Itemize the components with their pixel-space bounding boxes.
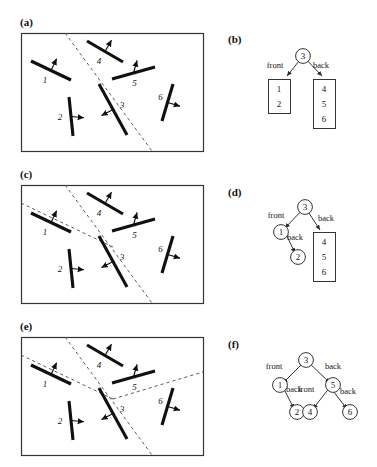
tree-leaf-box-1 — [314, 233, 336, 282]
segment-number-6: 6 — [158, 244, 163, 254]
tree-node-circle-4 — [303, 405, 318, 420]
tree-edge-1 — [287, 56, 303, 76]
scene-segment-4 — [87, 193, 123, 214]
dashed-split-line-2 — [21, 203, 113, 247]
segment-number-2: 2 — [58, 416, 63, 426]
tree-edge-1 — [285, 207, 305, 228]
edge-label-front-1: front — [268, 210, 285, 220]
dashed-split-line-1 — [65, 337, 152, 455]
tree-node-label-4: 4 — [308, 407, 313, 417]
dashed-split-line-1 — [65, 33, 152, 151]
tree-edge-3 — [283, 387, 294, 409]
segment-number-4: 4 — [97, 56, 102, 66]
segment-number-2: 2 — [58, 112, 63, 122]
scene-segment-6 — [162, 236, 173, 273]
normal-arrow-3 — [102, 414, 113, 420]
dashed-split-line-1 — [65, 185, 152, 303]
tree-edge-2 — [305, 207, 320, 230]
segment-number-6: 6 — [158, 396, 163, 406]
scene-segment-4 — [87, 345, 123, 366]
edge-label-back-5: back — [340, 386, 357, 396]
tree-leaf-item-4: 4 — [322, 84, 327, 94]
normal-arrow-3 — [102, 262, 113, 268]
edge-label-back-3: back — [286, 384, 303, 394]
scene-segment-1 — [31, 213, 71, 232]
tree-node-label-1: 1 — [279, 227, 284, 237]
edge-label-front-1: front — [266, 361, 283, 371]
tree-node-circle-2 — [290, 405, 305, 420]
tree-leaf-box-1 — [269, 80, 291, 114]
dashed-split-line-3 — [113, 372, 203, 399]
tree-node-circle-1 — [273, 378, 288, 393]
scene-segment-6 — [162, 388, 173, 425]
scene-bounding-box — [22, 338, 204, 456]
segment-number-1: 1 — [43, 75, 48, 85]
normal-arrow-5 — [134, 365, 138, 377]
tree-leaf-item-2: 2 — [277, 99, 282, 109]
tree-node-circle-3 — [298, 200, 313, 215]
normal-arrow-1 — [51, 211, 57, 223]
panel-label-d: (d) — [228, 186, 241, 198]
scene-segment-4 — [87, 41, 123, 62]
normal-arrow-3 — [102, 110, 113, 116]
segment-number-3: 3 — [119, 404, 125, 414]
scene-panel-a: 123456 — [22, 33, 204, 152]
tree-edge-3 — [285, 232, 295, 253]
panel-label-e: (e) — [20, 320, 32, 332]
figure-canvas: 123456 123456 123456 frontback312456 fro… — [0, 0, 377, 467]
tree-edge-5 — [330, 387, 347, 409]
normal-arrow-6 — [168, 103, 180, 107]
segment-number-4: 4 — [97, 208, 102, 218]
segment-number-1: 1 — [43, 379, 48, 389]
tree-node-circle-2 — [291, 250, 306, 265]
segment-number-5: 5 — [132, 230, 137, 240]
tree-node-circle-1 — [274, 225, 289, 240]
panel-label-c: (c) — [20, 168, 32, 180]
scene-segment-2 — [69, 249, 73, 288]
tree-leaf-item-5: 5 — [322, 252, 327, 262]
dashed-split-line-2 — [21, 355, 113, 399]
segment-number-5: 5 — [132, 382, 137, 392]
normal-arrow-2 — [71, 421, 84, 422]
tree-edge-2 — [306, 360, 330, 383]
tree-node-circle-6 — [343, 405, 358, 420]
scene-segment-3 — [99, 388, 127, 439]
normal-arrow-6 — [168, 407, 180, 411]
segment-number-3: 3 — [119, 100, 125, 110]
segment-number-4: 4 — [97, 360, 102, 370]
tree-node-label-2: 2 — [295, 407, 300, 417]
segment-number-6: 6 — [158, 92, 163, 102]
scene-segment-2 — [69, 401, 73, 440]
scene-segment-1 — [31, 365, 71, 384]
normal-arrow-2 — [71, 117, 84, 118]
tree-node-circle-3 — [299, 353, 314, 368]
tree-leaf-item-1: 1 — [277, 84, 282, 94]
tree-node-label-2: 2 — [296, 252, 301, 262]
scene-segment-5 — [112, 67, 155, 79]
tree-panel-f: frontbackbackfrontback315246 — [266, 353, 358, 420]
segment-number-5: 5 — [132, 78, 137, 88]
tree-edge-4 — [313, 387, 330, 409]
tree-node-label-3: 3 — [301, 51, 306, 61]
normal-arrow-1 — [51, 59, 57, 71]
tree-node-label-3: 3 — [304, 355, 309, 365]
edge-label-back-3: back — [287, 232, 304, 242]
normal-arrow-4 — [105, 192, 112, 203]
scene-segment-3 — [99, 236, 127, 287]
tree-leaf-item-6: 6 — [322, 267, 327, 277]
normal-arrow-5 — [134, 213, 138, 225]
edge-label-back-2: back — [325, 361, 342, 371]
tree-panel-b: frontback312456 — [267, 49, 336, 129]
edge-label-back-2: back — [313, 60, 330, 70]
scene-segment-5 — [112, 371, 155, 383]
tree-node-label-5: 5 — [331, 380, 336, 390]
normal-arrow-4 — [105, 344, 112, 355]
scene-segment-2 — [69, 97, 73, 136]
segment-number-1: 1 — [43, 227, 48, 237]
tree-leaf-item-6: 6 — [322, 114, 327, 124]
normal-arrow-2 — [71, 269, 84, 270]
scene-panel-c: 123456 — [21, 185, 204, 304]
edge-label-front-1: front — [267, 60, 284, 70]
tree-node-circle-3 — [296, 49, 311, 64]
panel-label-b: (b) — [228, 33, 241, 45]
